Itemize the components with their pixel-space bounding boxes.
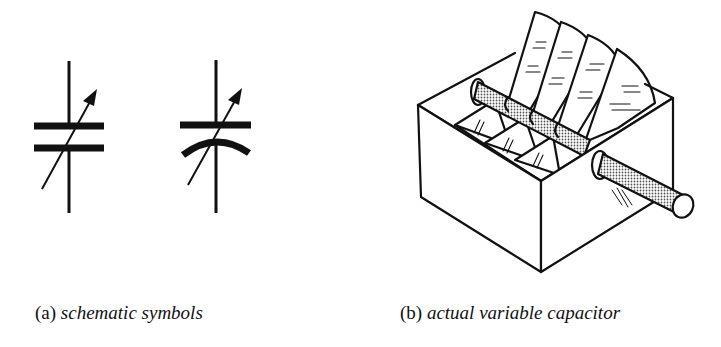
variable-capacitor-illustration <box>418 12 697 272</box>
caption-b: (b) actual variable capacitor <box>400 302 620 324</box>
schematic-symbol-curved <box>180 60 251 213</box>
caption-a-tag: (a) <box>35 302 56 323</box>
schematic-symbol-flat <box>34 61 104 213</box>
figure-canvas <box>0 0 721 347</box>
caption-b-tag: (b) <box>400 302 422 323</box>
caption-a-text: schematic symbols <box>61 302 203 323</box>
caption-b-text: actual variable capacitor <box>427 302 620 323</box>
caption-a: (a) schematic symbols <box>35 302 203 324</box>
